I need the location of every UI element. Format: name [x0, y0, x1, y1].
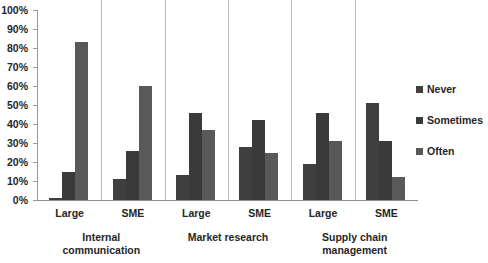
bar-often	[202, 130, 215, 200]
legend-label: Never	[427, 83, 456, 95]
legend-item[interactable]: Often	[416, 144, 488, 158]
x-axis-size-label: SME	[248, 207, 271, 219]
y-axis-tick-label: 50%	[7, 100, 28, 110]
bar-cluster	[239, 10, 278, 200]
bar-cluster	[113, 10, 152, 200]
bar-cluster	[49, 10, 88, 200]
y-axis-tick-label: 40%	[7, 119, 28, 129]
bar-often	[75, 42, 88, 200]
bar-sometimes	[252, 120, 265, 200]
y-axis-tick-label: 70%	[7, 62, 28, 72]
x-axis-size-label: SME	[375, 207, 398, 219]
bar-never	[113, 179, 126, 200]
bar-never	[49, 198, 62, 200]
bar-sometimes	[316, 113, 329, 200]
y-axis-tick-label: 60%	[7, 81, 28, 91]
group-separator	[355, 0, 356, 200]
legend-label: Sometimes	[427, 114, 483, 126]
bar-sometimes	[126, 151, 139, 200]
bar-sometimes	[62, 172, 75, 201]
bar-never	[303, 164, 316, 200]
group-separator	[101, 0, 102, 200]
legend-swatch-icon	[416, 117, 423, 124]
chart-legend: NeverSometimesOften	[416, 82, 488, 175]
legend-swatch-icon	[416, 148, 423, 155]
y-axis-tick-label: 90%	[7, 24, 28, 34]
bar-often	[329, 141, 342, 200]
plot-area	[38, 10, 418, 200]
bar-cluster	[176, 10, 215, 200]
group-separator	[165, 0, 166, 200]
legend-item[interactable]: Sometimes	[416, 113, 488, 127]
bar-cluster	[366, 10, 405, 200]
x-axis-activity-label: Internalcommunication	[63, 231, 141, 257]
x-axis-size-label: Large	[55, 207, 84, 219]
bar-cluster	[303, 10, 342, 200]
bar-never	[239, 147, 252, 200]
y-axis-tick-label: 20%	[7, 157, 28, 167]
bar-chart: 0%10%20%30%40%50%60%70%80%90%100% LargeS…	[0, 0, 488, 263]
group-separator	[291, 0, 292, 200]
bar-often	[392, 177, 405, 200]
legend-item[interactable]: Never	[416, 82, 488, 96]
y-axis: 0%10%20%30%40%50%60%70%80%90%100%	[0, 0, 32, 205]
x-axis-line	[37, 200, 418, 201]
bar-often	[265, 153, 278, 201]
y-axis-tick-label: 30%	[7, 138, 28, 148]
x-axis-size-label: SME	[122, 207, 145, 219]
legend-swatch-icon	[416, 86, 423, 93]
bar-sometimes	[379, 141, 392, 200]
bar-never	[366, 103, 379, 200]
y-axis-tick-label: 0%	[13, 195, 28, 205]
y-axis-tick-label: 80%	[7, 43, 28, 53]
y-axis-tick-label: 10%	[7, 176, 28, 186]
bar-sometimes	[189, 113, 202, 200]
legend-label: Often	[427, 145, 454, 157]
x-axis-size-label: Large	[309, 207, 338, 219]
group-separator	[228, 0, 229, 200]
bar-often	[139, 86, 152, 200]
y-axis-tick-label: 100%	[1, 5, 28, 15]
x-axis-activity-label: Supply chainmanagement	[322, 231, 387, 257]
x-axis-activity-label: Market research	[188, 231, 269, 244]
bar-never	[176, 175, 189, 200]
x-axis-size-label: Large	[182, 207, 211, 219]
